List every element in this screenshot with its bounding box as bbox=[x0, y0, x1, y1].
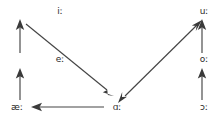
vowel-label-u: uː bbox=[200, 6, 209, 16]
edge-ae-to-e bbox=[16, 68, 24, 100]
edge-open-o-to-o bbox=[198, 68, 206, 100]
edge-i-to-a-arrowhead bbox=[103, 90, 114, 96]
vowel-shift-diagram: iː uː eː oː æː ɑː ɔː bbox=[0, 0, 221, 118]
vowel-shift-canvas: iː uː eː oː æː ɑː ɔː bbox=[0, 0, 221, 118]
vowel-label-open-o: ɔː bbox=[200, 102, 208, 112]
vowel-label-e: eː bbox=[56, 54, 65, 64]
edge-e-to-i bbox=[16, 19, 24, 53]
edge-a-to-u bbox=[118, 20, 202, 103]
edge-a-to-ae bbox=[31, 103, 104, 111]
vowel-label-i: iː bbox=[57, 6, 63, 16]
vowel-label-o: oː bbox=[200, 54, 209, 64]
vowel-label-a: ɑː bbox=[113, 102, 122, 112]
edge-a-to-u-line bbox=[125, 26, 196, 96]
edge-i-to-a bbox=[26, 24, 114, 96]
edge-i-to-a-line bbox=[26, 24, 107, 90]
vowel-label-ae: æː bbox=[11, 102, 23, 112]
